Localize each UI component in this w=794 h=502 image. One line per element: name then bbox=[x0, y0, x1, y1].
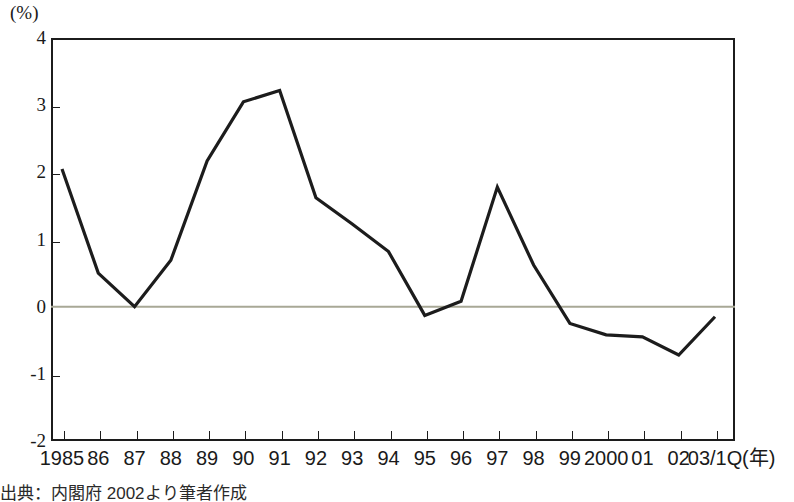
x-axis-tick-label: 99 bbox=[559, 446, 581, 470]
x-axis-tick-label: 98 bbox=[522, 446, 544, 470]
x-axis-tick-label: 96 bbox=[450, 446, 472, 470]
y-axis-tick-label: 0 bbox=[4, 297, 46, 316]
x-axis-tick-label: 86 bbox=[87, 446, 109, 470]
x-axis-tick-label: 95 bbox=[414, 446, 436, 470]
y-axis-tick-label: 2 bbox=[4, 162, 46, 181]
x-axis-tick-label: 93 bbox=[341, 446, 363, 470]
x-axis-tick-label: 02 bbox=[668, 446, 690, 470]
y-axis-tick-label-group: 43210-1-2 bbox=[0, 0, 46, 502]
data-series-line bbox=[62, 90, 715, 355]
x-axis-tick-label: 88 bbox=[160, 446, 182, 470]
x-axis-tick-label: 03/1Q bbox=[688, 446, 742, 470]
y-axis-tick-label: 1 bbox=[4, 230, 46, 249]
x-axis-unit-label: (年) bbox=[742, 446, 775, 470]
x-axis-tick-label: 01 bbox=[631, 446, 653, 470]
y-axis-tick-label: -1 bbox=[4, 364, 46, 383]
chart-figure: (%) 43210-1-2 (年) 1985868788899091929394… bbox=[0, 0, 794, 502]
y-axis-tick-label: 3 bbox=[4, 95, 46, 114]
x-axis-tick-label: 87 bbox=[123, 446, 145, 470]
plot-area bbox=[51, 38, 735, 441]
x-axis-tick-label: 94 bbox=[377, 446, 399, 470]
x-axis-tick-label: 1985 bbox=[40, 446, 85, 470]
x-axis-tick-label: 90 bbox=[232, 446, 254, 470]
x-axis-tick-label: 92 bbox=[305, 446, 327, 470]
x-axis-tick-label: 89 bbox=[196, 446, 218, 470]
x-axis-tick-label-group: (年) 198586878889909192939495969798992000… bbox=[0, 446, 794, 476]
x-axis-tick-label: 97 bbox=[486, 446, 508, 470]
x-axis-tick-label: 2000 bbox=[584, 446, 629, 470]
source-note: 出典：内閣府 2002より筆者作成 bbox=[0, 484, 247, 502]
y-axis-tick-label: 4 bbox=[4, 28, 46, 47]
x-axis-tick-label: 91 bbox=[269, 446, 291, 470]
